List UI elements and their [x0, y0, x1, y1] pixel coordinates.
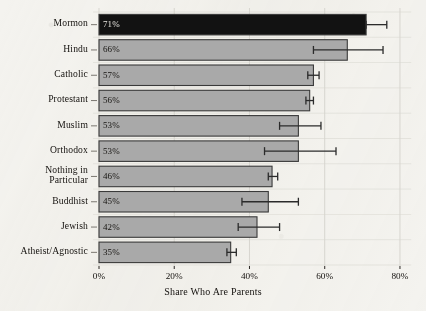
x-tick-label: 0% — [79, 271, 119, 281]
category-label: Orthodox — [0, 145, 88, 156]
bar — [99, 217, 257, 238]
bar-value-label: 42% — [103, 222, 120, 232]
category-label: Nothing in Particular — [0, 165, 88, 186]
category-label: Muslim — [0, 120, 88, 131]
bar-value-label: 53% — [103, 146, 120, 156]
bar-value-label: 71% — [103, 19, 120, 29]
chart-container: MormonHinduCatholicProtestantMuslimOrtho… — [0, 0, 426, 311]
category-label: Protestant — [0, 94, 88, 105]
bar — [99, 90, 310, 111]
bar-value-label: 46% — [103, 171, 120, 181]
bar-value-label: 57% — [103, 70, 120, 80]
category-label: Buddhist — [0, 196, 88, 207]
x-tick-label: 60% — [305, 271, 345, 281]
category-label: Hindu — [0, 44, 88, 55]
bar — [99, 14, 366, 35]
bar-value-label: 35% — [103, 247, 120, 257]
bar — [99, 166, 272, 187]
bar-value-label: 53% — [103, 120, 120, 130]
x-axis-title: Share Who Are Parents — [0, 286, 426, 297]
bar — [99, 116, 298, 137]
bar — [99, 65, 313, 86]
category-label: Jewish — [0, 221, 88, 232]
x-tick-label: 40% — [229, 271, 269, 281]
bar — [99, 40, 347, 61]
x-tick-label: 20% — [154, 271, 194, 281]
bar-value-label: 45% — [103, 196, 120, 206]
bar-value-label: 66% — [103, 44, 120, 54]
category-label: Mormon — [0, 18, 88, 29]
category-label: Catholic — [0, 69, 88, 80]
bar-value-label: 56% — [103, 95, 120, 105]
category-label: Atheist/Agnostic — [0, 246, 88, 257]
x-tick-label: 80% — [380, 271, 420, 281]
